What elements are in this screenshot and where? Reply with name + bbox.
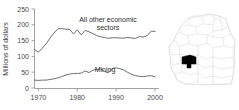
series-label-mining: Mining — [95, 66, 116, 74]
county-polygons — [169, 14, 235, 85]
x-tick-label-1970: 1970 — [31, 94, 47, 101]
line-chart-panel: Millions of dollars 250 200 150 100 50 0 — [0, 0, 164, 110]
series-line-all-other-economic-sectors — [35, 29, 156, 53]
y-axis-ticks: 250 200 150 100 50 0 — [17, 6, 34, 92]
y-tick-label-100: 100 — [17, 53, 29, 60]
county — [213, 46, 233, 59]
figure-root: Millions of dollars 250 200 150 100 50 0 — [0, 0, 239, 110]
county-map-svg — [163, 0, 239, 110]
series-label-all-other-sectors-line1: All other economic — [79, 16, 137, 23]
y-tick-label-50: 50 — [21, 69, 29, 76]
x-tick-label-1980: 1980 — [69, 94, 85, 101]
county-map-panel — [163, 0, 239, 110]
y-axis-title: Millions of dollars — [2, 22, 9, 76]
x-tick-label-1990: 1990 — [108, 94, 124, 101]
y-tick-label-200: 200 — [17, 21, 29, 28]
y-tick-label-250: 250 — [17, 6, 29, 13]
y-tick-label-150: 150 — [17, 37, 29, 44]
x-axis-ticks: 1970 1980 1990 2000 — [31, 89, 163, 102]
y-tick-label-0: 0 — [25, 85, 29, 92]
county — [196, 24, 213, 35]
x-tick-label-2000: 2000 — [147, 94, 163, 101]
series-label-all-other-sectors-line2: sectors — [97, 24, 120, 31]
chart-svg: Millions of dollars 250 200 150 100 50 0 — [0, 0, 164, 110]
county — [175, 72, 198, 84]
